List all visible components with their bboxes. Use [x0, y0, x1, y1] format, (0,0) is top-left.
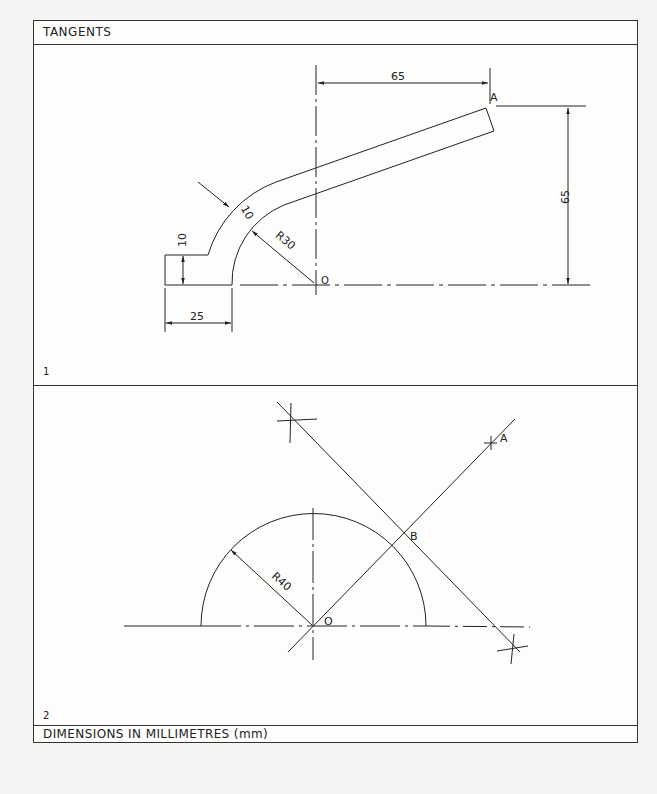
label-point-a: A [490, 91, 498, 104]
label-dim-r30: R30 [273, 229, 298, 253]
construction-arc [290, 403, 291, 443]
label-dim-10-thickness: 10 [238, 203, 256, 222]
part-outline [165, 108, 494, 285]
label-dim-r40: R40 [269, 570, 294, 594]
label-dim-65-horizontal: 65 [391, 70, 405, 83]
line-o-to-a [288, 419, 515, 652]
figure-2-labels: A B O R40 [269, 432, 508, 628]
label-point-o: O [321, 275, 329, 286]
label-point-o: O [324, 615, 333, 628]
technical-drawings: A O 65 65 25 10 10 R30 A [0, 0, 657, 794]
construction-arc [277, 419, 317, 421]
leader-thickness [198, 182, 229, 207]
base-line-extension [426, 626, 530, 627]
label-dim-65-vertical: 65 [559, 190, 572, 204]
label-dim-25: 25 [190, 310, 204, 323]
label-point-b: B [410, 530, 418, 543]
label-point-a: A [500, 432, 508, 445]
leader-r40 [231, 550, 312, 625]
figure-1 [165, 65, 595, 332]
label-dim-10-step: 10 [176, 233, 189, 247]
